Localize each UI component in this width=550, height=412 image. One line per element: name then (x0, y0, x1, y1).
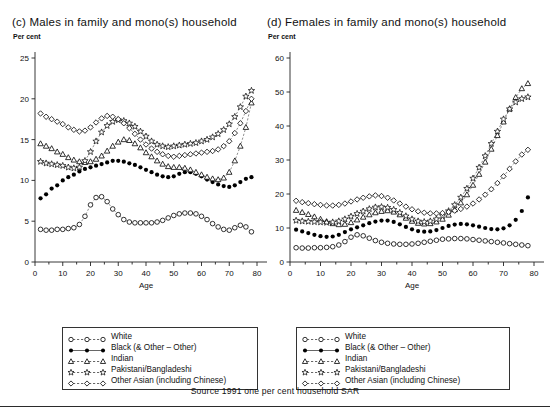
series-other-asian-including-chinese (293, 147, 530, 216)
x-axis-title: Age (405, 281, 420, 290)
legend-item[interactable]: Black (& Other – Other) (301, 342, 503, 353)
x-tick-label: 20 (347, 269, 356, 278)
x-tick-label: 70 (499, 269, 508, 278)
legend-label: Other Asian (including Chinese) (111, 375, 226, 386)
panel-d-unit-label: Per cent (268, 33, 296, 40)
filled-circle-icon (301, 342, 341, 353)
legend-label: Indian (345, 353, 367, 364)
y-tick-label: 10 (275, 224, 284, 233)
panel-c-unit-label: Per cent (13, 33, 41, 40)
series-white (294, 233, 530, 251)
plot-area-c: 051015202501020304050607080Age (0, 44, 275, 304)
legend-males: White Black (& Other – Other) Indian Pak… (62, 327, 258, 390)
legend-label: Pakistani/Bangladeshi (111, 364, 192, 375)
open-diamond-icon (301, 375, 341, 386)
x-tick-label: 40 (142, 269, 151, 278)
x-tick-label: 0 (288, 269, 293, 278)
legend-item[interactable]: Pakistani/Bangladeshi (301, 364, 503, 375)
bottom-rule (0, 406, 550, 407)
x-tick-label: 10 (316, 269, 325, 278)
y-tick-label: 25 (20, 54, 29, 63)
x-tick-label: 20 (86, 269, 95, 278)
open-star-icon (301, 364, 341, 375)
legend-item[interactable]: White (67, 331, 251, 342)
open-star-icon (67, 364, 107, 375)
open-circle-icon (67, 331, 107, 342)
y-tick-label: 40 (275, 122, 284, 131)
legend-label: White (345, 331, 366, 342)
x-axis-title: Age (139, 281, 154, 290)
x-tick-label: 60 (469, 269, 478, 278)
y-tick-label: 20 (20, 95, 29, 104)
y-tick-label: 0 (25, 258, 30, 267)
legend-item[interactable]: Black (& Other – Other) (67, 342, 251, 353)
y-tick-label: 0 (280, 258, 285, 267)
open-circle-icon (301, 331, 341, 342)
legend-item[interactable]: Indian (301, 353, 503, 364)
legend-label: Pakistani/Bangladeshi (345, 364, 426, 375)
x-tick-label: 80 (530, 269, 539, 278)
source-note: Source 1991 one per cent household SAR (0, 386, 550, 396)
x-tick-label: 0 (33, 269, 38, 278)
x-tick-label: 50 (438, 269, 447, 278)
legend-label: Other Asian (including Chinese) (345, 375, 460, 386)
chart-males: 051015202501020304050607080Age (0, 44, 275, 304)
figure-page: (c) Males in family and mono(s) househol… (0, 0, 550, 412)
panel-c-title: (c) Males in family and mono(s) househol… (12, 16, 237, 28)
y-tick-label: 5 (25, 217, 30, 226)
x-tick-label: 40 (408, 269, 417, 278)
legend-label: Black (& Other – Other) (111, 342, 197, 353)
legend-item[interactable]: Other Asian (including Chinese) (301, 375, 503, 386)
y-tick-label: 60 (275, 54, 284, 63)
legend-label: Indian (111, 353, 133, 364)
open-diamond-icon (67, 375, 107, 386)
x-tick-label: 30 (114, 269, 123, 278)
legend-item[interactable]: Other Asian (including Chinese) (67, 375, 251, 386)
x-tick-label: 60 (197, 269, 206, 278)
open-triangle-icon (301, 353, 341, 364)
y-tick-label: 50 (275, 88, 284, 97)
series-white (38, 194, 254, 234)
y-tick-label: 20 (275, 190, 284, 199)
legend-item[interactable]: Indian (67, 353, 251, 364)
x-tick-label: 70 (225, 269, 234, 278)
x-tick-label: 50 (169, 269, 178, 278)
legend-label: Black (& Other – Other) (345, 342, 431, 353)
legend-females: White Black (& Other – Other) Indian Pak… (296, 327, 510, 390)
legend-label: White (111, 331, 132, 342)
open-triangle-icon (67, 353, 107, 364)
filled-circle-icon (67, 342, 107, 353)
plot-area-d: 010203040506001020304050607080Age (247, 44, 550, 304)
legend-item[interactable]: Pakistani/Bangladeshi (67, 364, 251, 375)
x-tick-label: 30 (377, 269, 386, 278)
x-tick-label: 10 (58, 269, 67, 278)
panel-d-title: (d) Females in family and mono(s) househ… (267, 16, 506, 28)
legend-item[interactable]: White (301, 331, 503, 342)
y-tick-label: 15 (20, 136, 29, 145)
y-tick-label: 30 (275, 156, 284, 165)
chart-females: 010203040506001020304050607080Age (247, 44, 550, 304)
y-tick-label: 10 (20, 176, 29, 185)
